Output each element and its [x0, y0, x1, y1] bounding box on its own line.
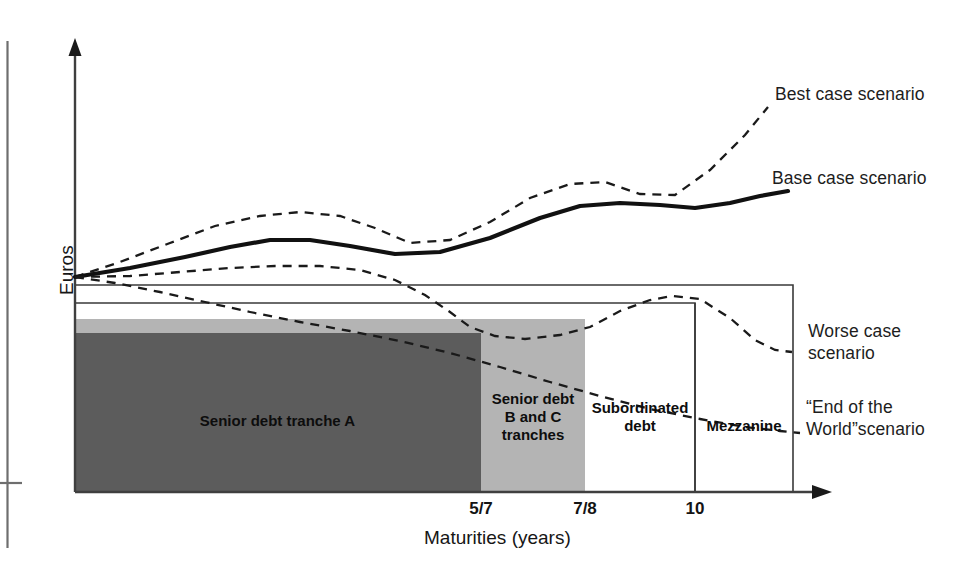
x-tick-label-5-7: 5/7	[441, 499, 521, 519]
block-label-senior-debt-tranche-a: Senior debt tranche A	[74, 412, 481, 430]
label-end-of-world-scenario-line1: “End of the	[806, 397, 893, 418]
y-axis-title: Euros	[56, 245, 78, 295]
label-end-of-world-scenario-line2: World”scenario	[806, 419, 925, 440]
label-base-case-scenario: Base case scenario	[772, 168, 927, 189]
label-worse-case-scenario-line2: scenario	[808, 343, 875, 364]
y-axis-arrow-icon	[69, 38, 82, 56]
x-axis-arrow-icon	[812, 485, 832, 499]
curve-base-case-scenario	[75, 191, 788, 277]
x-axis-title: Maturities (years)	[424, 527, 571, 549]
block-label-senior-debt-b-c-line2: B and C	[481, 408, 585, 426]
block-label-senior-debt-b-c-line1: Senior debt	[481, 390, 585, 408]
block-label-mezzanine: Mezzanine	[695, 417, 793, 435]
figure-canvas: Best case scenario Base case scenario Wo…	[0, 0, 977, 581]
label-best-case-scenario: Best case scenario	[775, 84, 925, 105]
x-tick-label-10: 10	[655, 499, 735, 519]
block-label-subordinated-debt-line1: Subordinated	[583, 399, 697, 417]
x-tick-label-7-8: 7/8	[545, 499, 625, 519]
label-worse-case-scenario-line1: Worse case	[808, 321, 901, 342]
block-label-senior-debt-b-c-line3: tranches	[481, 426, 585, 444]
block-label-subordinated-debt-line2: debt	[583, 417, 697, 435]
block-light-top-strip	[74, 319, 481, 333]
